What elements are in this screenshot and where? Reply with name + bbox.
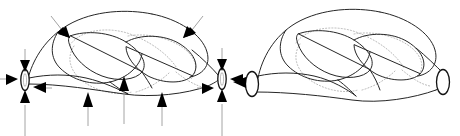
arrow-right-cap-top [217,48,227,71]
knot-deformation-diagram [0,0,460,136]
arrow-bottom-right-up [157,92,167,126]
left-flare-cap [246,72,259,97]
right-panel-solid-lines [252,9,444,101]
arrow-left-cap-bottom [20,90,30,136]
arrow-left-cap-left [0,74,18,85]
left-panel-hidden-lines [70,30,206,94]
right-flare-cap [437,70,450,95]
right-panel-hidden-lines [296,28,430,92]
arrow-bottom-mid-up [119,76,129,124]
arrow-top-left-inward [51,16,70,38]
figure-canvas [0,0,460,136]
right-panel-knot [233,9,450,101]
right-pinch-cap [218,69,226,90]
left-panel-knot [0,11,248,136]
arrow-right-cap-bottom [217,89,227,136]
arrow-left-cap-top [20,49,30,72]
left-pinch-cap [21,70,29,91]
arrow-bottom-left-up [83,92,93,126]
